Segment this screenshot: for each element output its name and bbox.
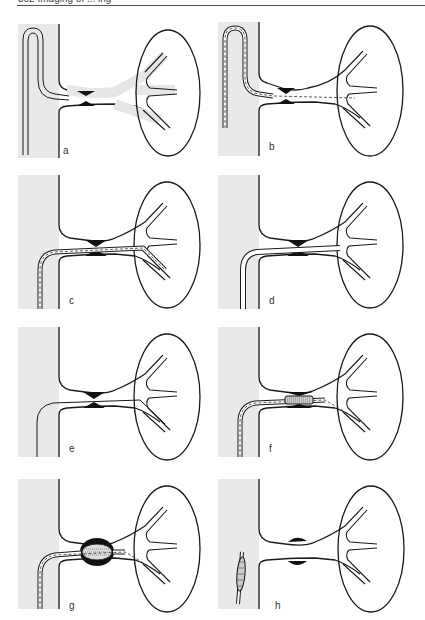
panel-g: g bbox=[15, 474, 215, 620]
panel-f: f bbox=[215, 322, 415, 472]
panel-label-f: f bbox=[269, 443, 272, 454]
kidney-diagram-a bbox=[15, 20, 215, 170]
panel-label-g: g bbox=[69, 600, 75, 611]
panel-label-h: h bbox=[275, 600, 281, 611]
panel-h: h bbox=[215, 474, 415, 620]
panel-b: b bbox=[215, 18, 415, 168]
kidney-diagram-f bbox=[215, 322, 415, 472]
kidney-diagram-b bbox=[215, 18, 415, 168]
header-rule bbox=[17, 5, 425, 6]
kidney-diagram-h bbox=[215, 474, 415, 620]
kidney-diagram-e bbox=[15, 322, 215, 472]
panel-label-c: c bbox=[69, 295, 74, 306]
page-header-text: 302 Imaging of ... ing bbox=[18, 0, 111, 4]
panel-label-d: d bbox=[269, 295, 275, 306]
panel-c: c bbox=[15, 170, 215, 320]
kidney-diagram-d bbox=[215, 170, 415, 320]
kidney-diagram-g bbox=[15, 474, 215, 620]
panel-label-b: b bbox=[269, 141, 275, 152]
panel-d: d bbox=[215, 170, 415, 320]
panel-label-a: a bbox=[63, 145, 69, 156]
kidney-diagram-c bbox=[15, 170, 215, 320]
panel-a: a bbox=[15, 20, 215, 170]
panel-label-e: e bbox=[69, 443, 75, 454]
panel-e: e bbox=[15, 322, 215, 472]
